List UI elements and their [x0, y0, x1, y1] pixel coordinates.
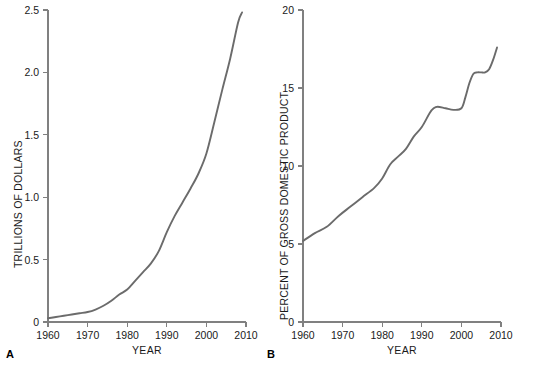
panel-a-xtick-5: 2010: [234, 329, 258, 341]
panel-b-data-line: [303, 47, 497, 240]
panel-b-y-axis-label: PERCENT OF GROSS DOMESTIC PRODUCT: [278, 92, 290, 320]
panel-a-xtick-1: 1970: [76, 329, 100, 341]
panel-b-tag: B: [267, 348, 275, 360]
panel-a-x-tickmarks: [48, 322, 246, 327]
panel-a-y-axis-label: TRILLIONS OF DOLLARS: [12, 140, 24, 268]
panel-b-ytick-4: 20: [282, 4, 294, 16]
panel-b-xtick-0: 1960: [291, 329, 315, 341]
panel-a-axis-lines: [48, 10, 246, 322]
panel-a-xtick-4: 2000: [195, 329, 219, 341]
panel-b-x-axis-label: YEAR: [303, 344, 501, 356]
panel-a-ytick-3: 1.5: [24, 129, 39, 141]
panel-a-y-tickmarks: [43, 10, 48, 322]
panel-a-ytick-2: 1.0: [24, 191, 39, 203]
panel-b-y-tickmarks: [298, 10, 303, 322]
panel-a-xtick-0: 1960: [36, 329, 60, 341]
panel-b-xtick-2: 1980: [371, 329, 395, 341]
panel-b: 0 5 10 15 20 1960 1970 1980 1990 2000 20…: [267, 0, 534, 367]
panel-a: 0 0.5 1.0 1.5 2.0 2.5 1960 1970 1980 199…: [0, 0, 267, 367]
panel-a-ytick-1: 0.5: [24, 254, 39, 266]
panel-a-ytick-4: 2.0: [24, 66, 39, 78]
panel-b-xtick-5: 2010: [489, 329, 513, 341]
panel-a-ytick-0: 0: [33, 316, 39, 328]
panel-b-axis-lines: [303, 10, 501, 322]
figure-container: 0 0.5 1.0 1.5 2.0 2.5 1960 1970 1980 199…: [0, 0, 534, 367]
panel-a-ytick-5: 2.5: [24, 4, 39, 16]
panel-a-xtick-3: 1990: [155, 329, 179, 341]
panel-b-xtick-3: 1990: [410, 329, 434, 341]
panel-b-plot: 0 5 10 15 20 1960 1970 1980 1990 2000 20…: [267, 0, 534, 367]
panel-a-x-axis-label: YEAR: [48, 344, 246, 356]
panel-b-x-tickmarks: [303, 322, 501, 327]
panel-b-xtick-1: 1970: [331, 329, 355, 341]
panel-a-data-line: [48, 13, 242, 319]
panel-b-xtick-4: 2000: [450, 329, 474, 341]
panel-a-tag: A: [6, 348, 14, 360]
panel-a-xtick-2: 1980: [116, 329, 140, 341]
panel-a-plot: 0 0.5 1.0 1.5 2.0 2.5 1960 1970 1980 199…: [0, 0, 267, 367]
